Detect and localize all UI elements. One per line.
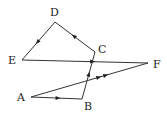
edge-E-F: [22, 60, 148, 63]
label-B: B: [84, 100, 92, 113]
edge-A-F: [31, 63, 148, 97]
label-A: A: [16, 91, 26, 104]
label-C: C: [98, 43, 106, 56]
arrowhead-icon: [103, 74, 108, 78]
labels-group: A B C D E F: [8, 6, 161, 113]
edges-group: [22, 22, 148, 99]
label-F: F: [153, 58, 161, 71]
label-D: D: [50, 6, 59, 19]
label-E: E: [8, 54, 16, 67]
arrowhead-icon: [86, 72, 90, 77]
arrowhead-icon: [56, 96, 61, 100]
arrowhead-icon: [96, 76, 101, 80]
vector-diagram: A B C D E F: [0, 0, 167, 114]
